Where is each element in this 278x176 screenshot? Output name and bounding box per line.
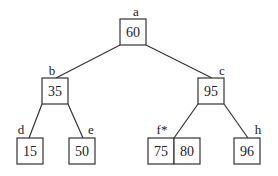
edge-a-b	[56, 45, 120, 78]
edge-b-d	[29, 104, 42, 138]
edge-b-e	[68, 104, 83, 138]
node-f: f* 75 80	[148, 122, 200, 165]
tree-diagram: a 60 b 35 c 95 d 15 e 50 f* 75 80 h 96	[0, 0, 278, 176]
node-value: 60	[126, 25, 140, 40]
node-value: 80	[180, 144, 194, 159]
node-label: b	[49, 63, 56, 78]
node-value: 35	[48, 84, 62, 99]
node-value: 95	[204, 84, 218, 99]
edge-c-h	[224, 104, 248, 138]
node-b: b 35	[42, 63, 68, 105]
node-value: 96	[240, 144, 254, 159]
node-e: e 50	[69, 122, 95, 165]
node-value: 50	[75, 144, 89, 159]
node-label: h	[255, 122, 262, 137]
node-label: c	[219, 63, 225, 78]
node-d: d 15	[17, 122, 43, 165]
node-h: h 96	[234, 122, 262, 165]
edge-c-f	[174, 104, 198, 138]
edge-a-c	[146, 45, 212, 78]
node-label: f*	[157, 122, 168, 137]
node-c: c 95	[198, 63, 225, 105]
node-a: a 60	[120, 4, 146, 46]
node-label: d	[18, 122, 25, 137]
node-value: 15	[23, 144, 37, 159]
node-value: 75	[154, 144, 168, 159]
node-label: e	[88, 122, 94, 137]
node-label: a	[133, 4, 139, 19]
